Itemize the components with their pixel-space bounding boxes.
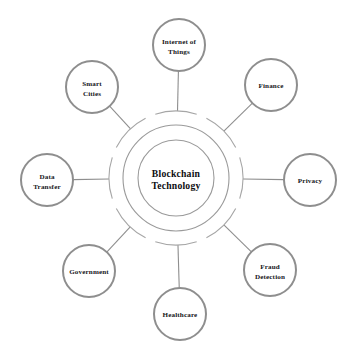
node-label-healthcare-line-1: Healthcare bbox=[163, 311, 198, 319]
spoke-node-privacy[interactable]: Privacy bbox=[284, 154, 336, 206]
node-label-internet-of-things-line-1: Internet of bbox=[162, 38, 197, 46]
hub-label-line-2: Technology bbox=[151, 180, 200, 191]
spoke-node-healthcare[interactable]: Healthcare bbox=[154, 288, 206, 340]
spoke-node-internet-of-things[interactable]: Internet ofThings bbox=[153, 19, 205, 71]
hub-arc-fraud-detection bbox=[206, 208, 235, 237]
spoke-node-data-transfer[interactable]: DataTransfer bbox=[21, 154, 73, 206]
hub-arc-government bbox=[116, 208, 145, 237]
spoke-line-healthcare bbox=[178, 245, 179, 288]
node-label-internet-of-things-line-2: Things bbox=[168, 48, 190, 56]
spoke-line-finance bbox=[224, 103, 253, 131]
spoke-line-smart-cities bbox=[110, 106, 131, 129]
node-label-fraud-detection-line-1: Fraud bbox=[260, 263, 280, 271]
spoke-line-privacy bbox=[243, 179, 284, 180]
spoke-line-internet-of-things bbox=[178, 71, 179, 111]
node-label-finance-line-1: Finance bbox=[258, 82, 283, 90]
blockchain-technology-radial-diagram: Blockchain Technology Internet ofThingsF… bbox=[0, 0, 351, 355]
node-label-government-line-1: Government bbox=[69, 268, 109, 276]
spoke-node-finance[interactable]: Finance bbox=[245, 59, 297, 111]
hub-arc-healthcare bbox=[155, 242, 196, 245]
node-label-data-transfer-line-1: Data bbox=[39, 173, 54, 181]
hub-arc-finance bbox=[206, 118, 235, 147]
node-label-smart-cities-line-2: Cities bbox=[83, 90, 101, 98]
node-label-smart-cities-line-1: Smart bbox=[82, 80, 102, 88]
hub-arc-data-transfer bbox=[109, 157, 112, 198]
node-label-privacy-line-1: Privacy bbox=[298, 177, 323, 185]
spoke-line-data-transfer bbox=[73, 179, 109, 180]
spoke-node-fraud-detection[interactable]: FraudDetection bbox=[244, 244, 296, 296]
hub-arc-internet-of-things bbox=[155, 111, 196, 114]
node-label-data-transfer-line-2: Transfer bbox=[33, 183, 60, 191]
radial-diagram-canvas: Blockchain Technology Internet ofThingsF… bbox=[0, 0, 351, 355]
spoke-node-smart-cities[interactable]: SmartCities bbox=[66, 61, 118, 113]
spoke-node-government[interactable]: Government bbox=[63, 245, 115, 297]
hub-arc-privacy bbox=[240, 157, 243, 198]
hub-label-line-1: Blockchain bbox=[152, 168, 201, 179]
spoke-line-fraud-detection bbox=[224, 225, 252, 252]
spoke-line-government bbox=[107, 227, 130, 252]
node-label-fraud-detection-line-2: Detection bbox=[255, 273, 285, 281]
hub-arc-smart-cities bbox=[116, 118, 145, 147]
